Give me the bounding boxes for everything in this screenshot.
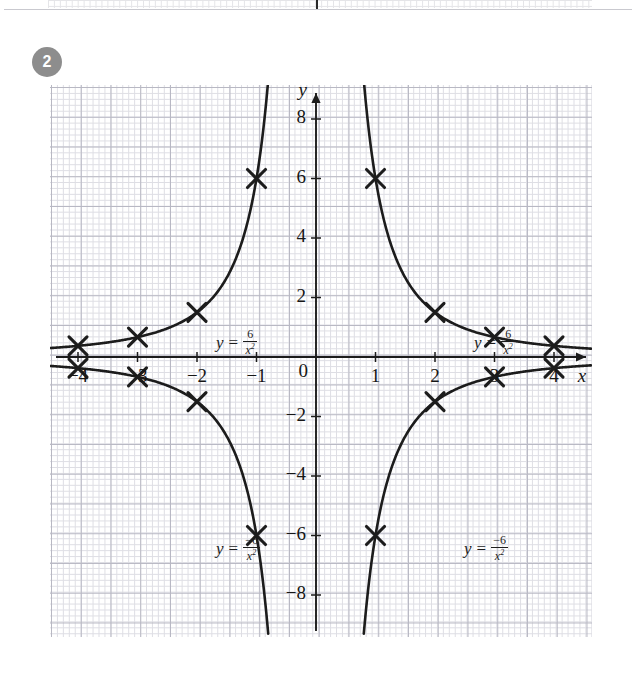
fraction-numerator: 6 — [245, 328, 255, 341]
annotation-upper-left: y = 6 x2 — [216, 329, 257, 357]
annotation-lower-right: y = −6 x2 — [464, 535, 508, 563]
question-number-badge: 2 — [32, 47, 62, 77]
x-axis-arrowhead — [576, 352, 586, 361]
denominator-exponent: 2 — [252, 548, 256, 557]
fraction-numerator: −6 — [243, 534, 260, 547]
y-axis-label: y — [299, 79, 307, 101]
fraction-denominator: x2 — [245, 548, 258, 562]
y-tick-label: 4 — [297, 225, 307, 247]
fraction-numerator: −6 — [491, 534, 508, 547]
denominator-exponent: 2 — [251, 342, 255, 351]
bleed-axis-line — [316, 0, 318, 9]
annotation-fraction: 6 x2 — [501, 328, 515, 356]
y-tick-label: −8 — [286, 582, 306, 604]
bleed-graph-grid — [48, 0, 592, 8]
annotation-fraction: −6 x2 — [491, 534, 508, 562]
y-tick-label: 2 — [297, 285, 307, 307]
y-tick-label: 6 — [297, 166, 307, 188]
data-point-marker — [129, 328, 147, 346]
annotation-fraction: 6 x2 — [243, 328, 257, 356]
x-tick-label-0: 0 — [299, 360, 309, 382]
graph-paper-panel: y = 6 x2 y = 6 x2 y = −6 x2 y = −6 x2 — [50, 85, 592, 637]
y-tick-label: −6 — [286, 523, 306, 545]
x-tick-label: −2 — [187, 365, 207, 387]
annotation-upper-right: y = 6 x2 — [474, 329, 515, 357]
fraction-numerator: 6 — [503, 328, 513, 341]
denominator-exponent: 2 — [509, 342, 513, 351]
data-point-marker — [426, 303, 444, 321]
section-divider — [4, 9, 632, 10]
x-axis-label: x — [578, 365, 586, 387]
x-tick-label: −4 — [68, 365, 88, 387]
annotation-equals: = — [487, 333, 497, 353]
annotation-lhs: y — [464, 539, 472, 559]
x-tick-label: −1 — [246, 365, 266, 387]
y-tick-label: 8 — [297, 106, 307, 128]
y-tick-label: −2 — [286, 404, 306, 426]
annotation-equals: = — [229, 333, 239, 353]
annotation-fraction: −6 x2 — [243, 534, 260, 562]
previous-question-bleed — [0, 0, 636, 14]
x-tick-label: 4 — [549, 365, 559, 387]
x-tick-label: 3 — [490, 365, 500, 387]
fraction-denominator: x2 — [501, 342, 514, 356]
data-point-marker — [426, 393, 444, 411]
data-point-marker — [188, 393, 206, 411]
x-tick-label: 2 — [430, 365, 440, 387]
y-axis-arrowhead — [311, 93, 320, 103]
curve-branch — [364, 85, 591, 349]
fraction-denominator: x2 — [493, 548, 506, 562]
x-tick-label: −3 — [127, 365, 147, 387]
plot-svg — [50, 85, 592, 637]
annotation-lower-left: y = −6 x2 — [216, 535, 260, 563]
fraction-denominator: x2 — [243, 342, 256, 356]
annotation-lhs: y — [474, 333, 482, 353]
y-tick-label: −4 — [286, 463, 306, 485]
annotation-equals: = — [229, 539, 239, 559]
denominator-exponent: 2 — [500, 548, 504, 557]
annotation-lhs: y — [216, 539, 224, 559]
curves-layer — [50, 85, 591, 634]
curve-branch — [364, 365, 591, 633]
data-point-marker — [188, 303, 206, 321]
annotation-lhs: y — [216, 333, 224, 353]
annotation-equals: = — [477, 539, 487, 559]
x-tick-label: 1 — [371, 365, 381, 387]
curve-branch — [50, 365, 268, 633]
curve-branch — [50, 85, 268, 349]
